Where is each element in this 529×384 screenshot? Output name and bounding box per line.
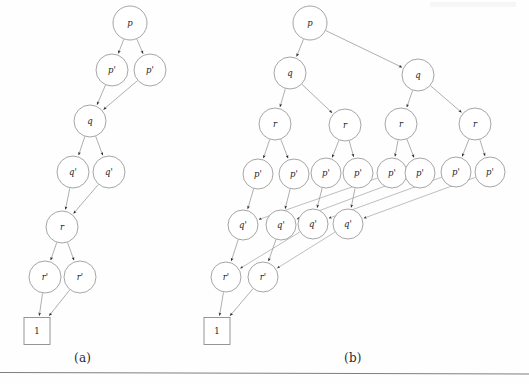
graph-node: q xyxy=(402,59,434,91)
graph-node: q xyxy=(74,105,106,137)
node-label: q xyxy=(87,116,93,126)
graph-node: r xyxy=(459,108,491,140)
scan-artifact xyxy=(430,2,516,7)
node-label: p' xyxy=(322,168,330,178)
graph-edge xyxy=(332,140,339,157)
node-label: q' xyxy=(105,167,113,177)
graph-node: 1 xyxy=(204,318,230,345)
figure-canvas: pp'p'qq'q'rr'r'1 pqqrrrrp'p'p'p'p'p'p'p'… xyxy=(0,0,529,384)
graph-edge xyxy=(51,243,57,260)
node-label: p' xyxy=(108,65,116,75)
node-label: r' xyxy=(42,272,48,282)
graph-edge xyxy=(79,137,85,155)
graph-edge xyxy=(302,84,332,112)
graph-edge xyxy=(285,189,290,209)
footer-rule xyxy=(0,373,529,375)
graph-node: p' xyxy=(343,158,373,188)
node-label: p' xyxy=(354,168,362,178)
graph-node: r xyxy=(329,109,361,141)
graph-node: p' xyxy=(279,159,309,189)
graph-edge xyxy=(263,140,269,158)
node-label: q' xyxy=(277,220,285,230)
graph-node: p' xyxy=(377,158,407,188)
graph-node: q' xyxy=(93,156,125,188)
graph-edge xyxy=(281,139,288,158)
node-label: p' xyxy=(416,168,424,178)
graph-edge xyxy=(349,141,353,157)
graph-node: q' xyxy=(57,156,89,188)
graph-edge xyxy=(480,140,485,156)
graph-edge xyxy=(248,189,254,209)
caption-b: (b) xyxy=(344,351,362,365)
node-label: p' xyxy=(388,168,396,178)
graph-node: r' xyxy=(248,262,278,292)
graph-node: q xyxy=(274,57,306,89)
graph-node: p xyxy=(293,6,327,40)
node-label: r' xyxy=(77,272,83,282)
graph-edge xyxy=(68,243,74,261)
graph-edge xyxy=(74,185,99,214)
graph-edge xyxy=(462,139,469,156)
node-label: r' xyxy=(223,272,229,282)
graph-node: r' xyxy=(29,261,61,293)
node-label: 1 xyxy=(214,326,219,336)
graph-node: r xyxy=(46,211,78,243)
node-label: q' xyxy=(69,167,77,177)
graph-node: 1 xyxy=(24,318,50,345)
graph-node: r xyxy=(385,108,417,140)
node-label: p xyxy=(307,18,313,28)
node-label: p' xyxy=(254,169,262,179)
graph-edge xyxy=(297,39,304,56)
graph-edge xyxy=(220,292,224,315)
graph-edge xyxy=(118,39,123,53)
graph-edge xyxy=(407,91,413,107)
graph-node: p' xyxy=(441,157,471,187)
graph-node: r xyxy=(259,108,291,140)
graph-node: p' xyxy=(134,54,166,86)
graph-node: q' xyxy=(228,210,258,240)
graph-node: p' xyxy=(311,158,341,188)
node-label: p xyxy=(127,18,133,28)
graph-edge xyxy=(326,31,402,68)
node-label: r' xyxy=(260,272,266,282)
node-label: q' xyxy=(309,219,317,229)
graph-edge xyxy=(97,85,105,104)
graph-edge xyxy=(49,290,69,316)
graph-edge xyxy=(66,188,70,209)
graph-node: r' xyxy=(211,262,241,292)
node-label: p' xyxy=(486,167,494,177)
node-label: q xyxy=(287,68,293,78)
caption-a: (a) xyxy=(74,351,91,365)
node-label: q xyxy=(415,70,421,80)
node-label: p' xyxy=(452,167,460,177)
graph-edge xyxy=(39,293,42,315)
node-label: p' xyxy=(290,169,298,179)
graph-edge xyxy=(231,240,238,261)
graph-edge xyxy=(395,140,398,156)
node-label: 1 xyxy=(34,326,39,336)
graph-node: p' xyxy=(96,54,128,86)
graph-node: p' xyxy=(475,157,505,187)
graph-node: p' xyxy=(243,159,273,189)
graph-edge xyxy=(230,289,253,316)
graph-node: r' xyxy=(64,261,96,293)
graph-node: q' xyxy=(298,209,328,239)
diagram-a-nodes: pp'p'qq'q'rr'r'1 xyxy=(24,6,166,345)
graph-node: p' xyxy=(405,158,435,188)
graph-node: q' xyxy=(266,210,296,240)
graph-edge xyxy=(431,86,462,113)
node-label: q' xyxy=(344,219,352,229)
graph-edge xyxy=(407,139,414,157)
graph-edge xyxy=(137,39,143,53)
graph-node: q' xyxy=(333,209,363,239)
graph-node: p xyxy=(113,6,147,40)
node-label: p' xyxy=(146,65,154,75)
graph-edge xyxy=(280,89,285,107)
graph-edge xyxy=(96,136,103,155)
node-label: q' xyxy=(239,220,247,230)
